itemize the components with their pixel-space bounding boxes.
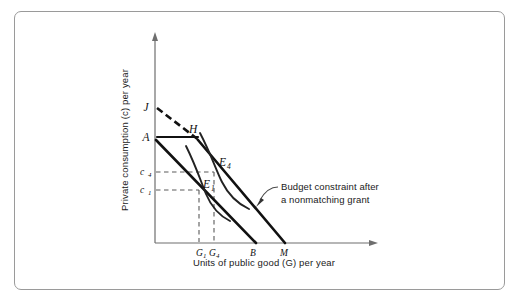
y-tick-c4-base: c — [140, 167, 145, 177]
point-label-H: H — [188, 123, 198, 135]
annotation-line-1: Budget constraint after — [281, 181, 379, 192]
x-tick-G4-subscript: 4 — [216, 252, 220, 259]
y-tick-c1-subscript: 1 — [148, 189, 151, 196]
x-tick-G1-base: G — [196, 248, 203, 258]
x-axis-arrow-icon — [369, 240, 378, 246]
point-label-E4-subscript: 4 — [227, 162, 231, 171]
y-tick-label-J: J — [143, 101, 149, 113]
economics-diagram: Private consumption (c) per year Units o… — [0, 0, 519, 305]
point-label-E1-base: E — [202, 178, 210, 190]
x-tick-label-M: M — [279, 248, 289, 258]
indifference-curves-group — [186, 133, 249, 221]
figure-root: Private consumption (c) per year Units o… — [0, 0, 519, 305]
y-tick-label-c4: c 4 — [140, 167, 152, 178]
y-tick-label-A: A — [141, 131, 150, 143]
x-tick-label-B: B — [250, 248, 256, 258]
point-label-E4-base: E — [218, 156, 226, 168]
axes-group — [152, 32, 378, 246]
y-axis-arrow-icon — [152, 32, 158, 41]
x-tick-label-G1: G 1 — [196, 248, 206, 259]
y-tick-c1-base: c — [140, 185, 145, 195]
annotation-line-2: a nonmatching grant — [281, 194, 370, 205]
point-label-E4: E 4 — [218, 156, 231, 171]
y-axis-title: Private consumption (c) per year — [119, 69, 130, 211]
budget-lines-group — [156, 108, 285, 243]
x-tick-G4-base: G — [209, 248, 216, 258]
annotation-leader-group — [256, 187, 278, 207]
point-label-E1-subscript: 1 — [211, 184, 215, 193]
x-tick-label-G4: G 4 — [209, 248, 220, 259]
x-tick-G1-subscript: 1 — [203, 252, 206, 259]
y-tick-label-c1: c 1 — [140, 185, 152, 196]
y-tick-c4-subscript: 4 — [148, 171, 152, 178]
x-axis-title: Units of public good (G) per year — [193, 257, 335, 268]
annotation-leader-line — [260, 187, 278, 200]
